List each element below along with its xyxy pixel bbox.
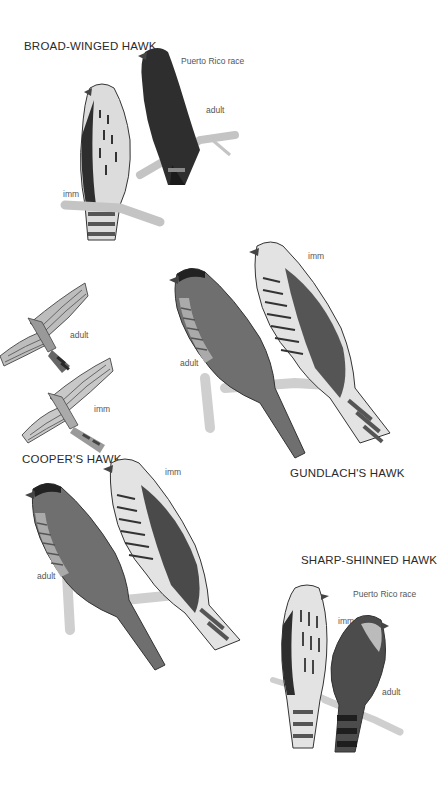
gundlachs-hawk-illustration — [165, 238, 395, 463]
broad-winged-hawk-illustration — [60, 40, 250, 250]
sharp-shinned-hawk-illustration — [265, 580, 405, 755]
coopers-hawk-illustration — [25, 455, 250, 675]
title-sharp-shinned-hawk: SHARP-SHINNED HAWK — [301, 554, 437, 566]
field-guide-plate: BROAD-WINGED HAWK Puerto Rico race adult… — [0, 0, 443, 802]
flight-figures-illustration — [0, 278, 120, 448]
title-gundlachs-hawk: GUNDLACH'S HAWK — [290, 467, 405, 479]
